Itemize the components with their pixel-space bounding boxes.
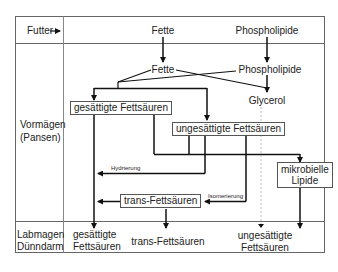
- label-isomerierung: Isomerierung: [208, 193, 243, 200]
- bottom-saturated-line2: Fettsäuren: [73, 241, 121, 252]
- bottom-saturated-line1: gesättigte: [73, 229, 121, 240]
- bottom-trans: trans-Fettsäuren: [130, 236, 206, 247]
- rumen-phospholipide: Phospholipide: [235, 64, 305, 75]
- row-label-vormagen: Vormägen (Pansen): [20, 119, 60, 143]
- box-saturated-fatty-acids: gesättigte Fettsäuren: [70, 101, 172, 115]
- row-label-labmagen: Labmagen Dünndarm: [17, 229, 64, 252]
- box-microbial-lipids: mikrobielle Lipide: [277, 162, 333, 188]
- row-label-labmagen-line1: Labmagen: [17, 229, 64, 240]
- bottom-unsaturated: ungesättigte Fettsäuren: [237, 230, 293, 253]
- box-unsaturated-fatty-acids: ungesättigte Fettsäuren: [172, 122, 285, 136]
- microbial-line1: mikrobielle: [281, 164, 329, 175]
- feed-phospholipide: Phospholipide: [232, 25, 302, 36]
- row-label-vormagen-line2: (Pansen): [20, 132, 60, 143]
- row-label-futter: Futter: [27, 25, 53, 36]
- label-hydrierung: Hydrierung: [111, 165, 140, 172]
- feed-fette: Fette: [143, 25, 183, 36]
- row-label-labmagen-line2: Dünndarm: [17, 241, 64, 252]
- bottom-unsaturated-line2: Fettsäuren: [237, 242, 293, 253]
- box-trans-fatty-acids: trans-Fettsäuren: [120, 194, 201, 208]
- bottom-saturated: gesättigte Fettsäuren: [73, 229, 121, 252]
- microbial-line2: Lipide: [281, 175, 329, 186]
- rumen-fette: Fette: [148, 64, 178, 75]
- rumen-glycerol: Glycerol: [244, 95, 290, 106]
- row-label-vormagen-line1: Vormägen: [20, 119, 60, 130]
- bottom-unsaturated-line1: ungesättigte: [237, 230, 293, 241]
